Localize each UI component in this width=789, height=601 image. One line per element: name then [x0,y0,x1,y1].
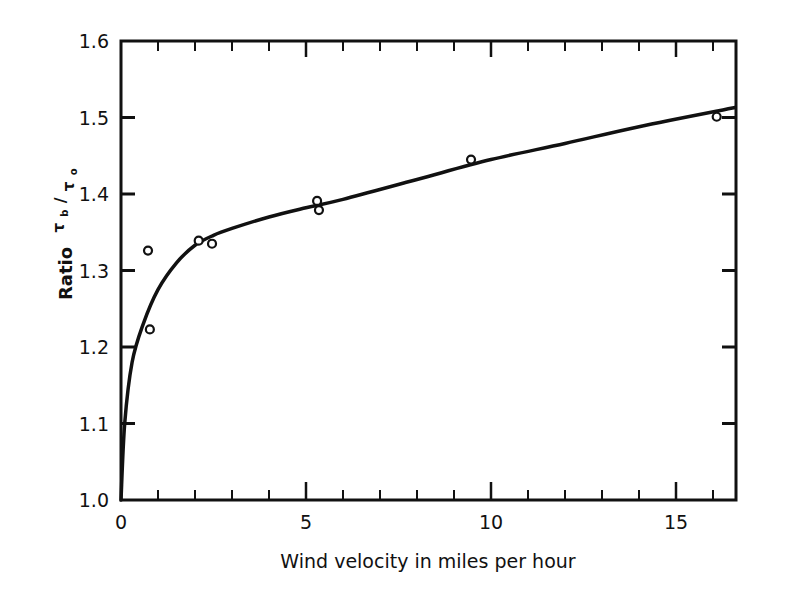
y-tick-label: 1.5 [79,107,109,129]
y-axis-title-den-sub: o [68,168,79,175]
y-axis-title-num: τ [50,223,68,233]
data-point-marker [208,240,216,248]
svg-text:Ratio τ b /: Ratio τ b / τ o [47,168,79,300]
data-point-marker [313,197,321,205]
x-axis-ticks: 051015 [115,41,713,533]
y-axis-title: Ratio τ b / τ o [47,168,79,300]
y-axis-ticks: 1.01.11.21.31.41.51.6 [79,30,736,511]
data-point-marker [195,237,203,245]
fitted-curve-line [121,108,735,500]
data-point-marker [467,156,475,164]
y-axis-title-slash: / [51,197,70,203]
plot-frame [121,41,736,500]
x-tick-label: 0 [115,511,127,533]
data-point-marker [315,206,323,214]
y-tick-label: 1.4 [79,183,109,205]
y-axis-title-word: Ratio [55,247,76,300]
fitted-curve [121,108,735,500]
x-tick-label: 5 [300,511,312,533]
data-points [144,113,721,334]
data-point-marker [713,113,721,121]
y-axis-title-num-sub: b [59,210,70,217]
chart: 1.01.11.21.31.41.51.6 051015 Wind veloci… [0,0,789,601]
y-axis-title-den: τ [60,181,78,191]
y-tick-label: 1.0 [79,489,109,511]
plot-border [121,41,736,500]
x-tick-label: 15 [664,511,688,533]
data-point-marker [146,325,154,333]
y-tick-label: 1.2 [79,336,109,358]
data-point-marker [144,247,152,255]
y-tick-label: 1.6 [79,30,109,52]
x-tick-label: 10 [479,511,503,533]
y-tick-label: 1.3 [79,260,109,282]
y-tick-label: 1.1 [79,413,109,435]
x-axis-title: Wind velocity in miles per hour [280,550,575,572]
